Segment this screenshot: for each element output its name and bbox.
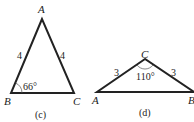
vertex-b-label-d: B [188, 94, 194, 106]
vertex-c-label-d: C [141, 48, 149, 60]
vertex-a-label: A [37, 3, 45, 15]
vertex-a-label-d: A [91, 94, 99, 106]
angle-c-arc [137, 65, 153, 69]
vertex-b-label: B [4, 95, 11, 107]
triangle-c: A B C 4 4 66° (c) [4, 3, 81, 121]
angle-b-label: 66° [23, 81, 37, 92]
caption-c: (c) [35, 109, 46, 121]
side-ab-label: 4 [17, 50, 22, 61]
caption-d: (d) [139, 107, 151, 119]
triangles-diagram: A B C 4 4 66° (c) C A B 3 3 110° (d) [0, 0, 194, 122]
angle-b-arc [16, 83, 23, 93]
side-ca-label: 3 [114, 67, 119, 78]
side-ac-label: 4 [60, 50, 65, 61]
vertex-c-label: C [73, 95, 81, 107]
side-cb-label: 3 [171, 67, 176, 78]
angle-c-label: 110° [136, 71, 155, 82]
triangle-d: C A B 3 3 110° (d) [91, 48, 194, 119]
